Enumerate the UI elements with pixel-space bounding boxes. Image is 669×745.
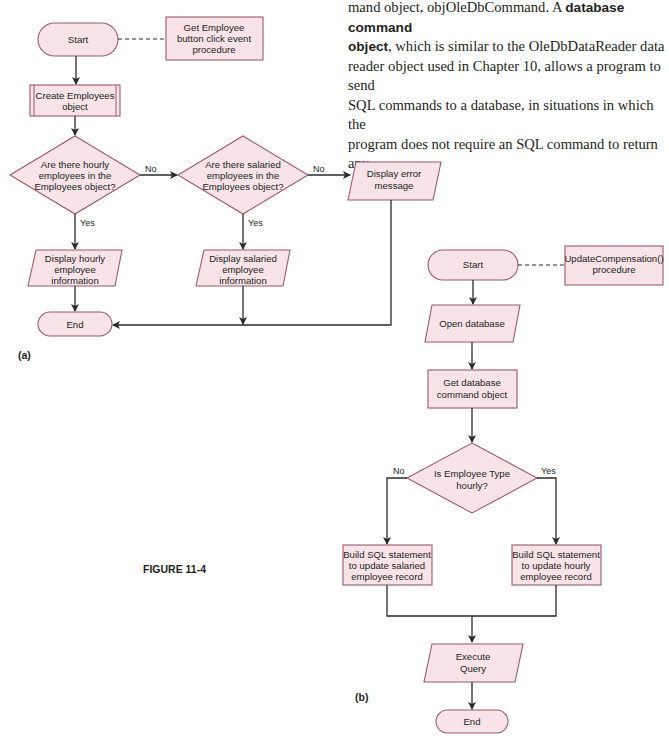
io-display-error: Display error message xyxy=(348,162,441,200)
process-label: Create Employees xyxy=(36,90,115,101)
decision-hourly-employees: Are there hourly employees in the Employ… xyxy=(10,136,140,214)
decision-label: Employees object? xyxy=(202,181,283,192)
part-b-label: (b) xyxy=(355,691,368,703)
end-label: End xyxy=(66,319,83,330)
process-label: Build SQL statement xyxy=(343,549,431,560)
io-label: Display hourly xyxy=(45,253,105,264)
note-line: button click event xyxy=(177,33,251,44)
process-get-command: Get database command object xyxy=(428,370,517,408)
start-label: Start xyxy=(68,34,89,45)
process-label: Get database xyxy=(443,377,501,388)
io-label: information xyxy=(219,275,266,286)
process-label: employee record xyxy=(520,571,591,582)
end-terminal-a: End xyxy=(38,312,112,336)
flowchart-a: Start Get Employee button click event pr… xyxy=(10,17,441,361)
io-label: Query xyxy=(460,663,486,674)
io-label: employee xyxy=(54,264,96,275)
note-line: Get Employee xyxy=(184,22,245,33)
io-display-hourly: Display hourly employee information xyxy=(28,250,122,286)
yes-label: Yes xyxy=(80,218,95,228)
decision-label: Are there salaried xyxy=(205,159,281,170)
process-label: employee record xyxy=(351,571,422,582)
io-label: Execute xyxy=(456,651,491,662)
decision-salaried-employees: Are there salaried employees in the Empl… xyxy=(178,136,308,214)
process-label: object xyxy=(62,101,88,112)
process-label: command object xyxy=(437,389,508,400)
no-label: No xyxy=(313,164,325,174)
yes-label: Yes xyxy=(541,466,556,476)
no-label: No xyxy=(145,164,157,174)
annotation-note-a: Get Employee button click event procedur… xyxy=(166,17,263,60)
decision-label: Are there hourly xyxy=(41,159,109,170)
end-terminal-b: End xyxy=(436,710,508,733)
io-label: information xyxy=(51,275,98,286)
no-label: No xyxy=(393,466,405,476)
figure-caption: FIGURE 11-4 xyxy=(143,563,206,575)
process-label: to update salaried xyxy=(349,560,425,571)
decision-label: Employees object? xyxy=(34,181,115,192)
process-label: to update hourly xyxy=(522,560,591,571)
decision-label: hourly? xyxy=(456,480,487,491)
part-a-label: (a) xyxy=(18,349,31,361)
flowchart-figure: Start Get Employee button click event pr… xyxy=(0,0,669,745)
arrow-yes xyxy=(537,478,556,544)
annotation-note-b: UpdateCompensation() procedure xyxy=(564,246,663,285)
process-build-hourly-sql: Build SQL statement to update hourly emp… xyxy=(512,545,601,585)
predefined-process-create-employees: Create Employees object xyxy=(30,85,120,116)
decision-label: Is Employee Type xyxy=(434,468,510,479)
start-terminal-a: Start xyxy=(38,23,118,56)
io-label: Display error xyxy=(367,168,422,179)
note-line: procedure xyxy=(592,264,635,275)
decision-label: employees in the xyxy=(39,170,112,181)
merge-line xyxy=(387,585,556,616)
io-label: Open database xyxy=(439,318,505,329)
start-terminal-b: Start xyxy=(428,250,518,280)
end-label: End xyxy=(463,716,480,727)
arrow-no xyxy=(387,478,407,544)
io-display-salaried: Display salaried employee information xyxy=(196,250,290,286)
io-open-database: Open database xyxy=(425,305,520,342)
note-line: procedure xyxy=(192,44,235,55)
start-label: Start xyxy=(463,259,484,270)
process-build-salaried-sql: Build SQL statement to update salaried e… xyxy=(343,545,432,585)
decision-employee-type: Is Employee Type hourly? xyxy=(407,443,537,513)
decision-label: employees in the xyxy=(207,170,280,181)
io-execute-query: Execute Query xyxy=(424,644,523,682)
note-line: UpdateCompensation() xyxy=(564,253,663,264)
io-label: Display salaried xyxy=(209,253,277,264)
process-label: Build SQL statement xyxy=(512,549,600,560)
io-label: employee xyxy=(222,264,264,275)
io-label: message xyxy=(375,180,414,191)
yes-label: Yes xyxy=(248,218,263,228)
